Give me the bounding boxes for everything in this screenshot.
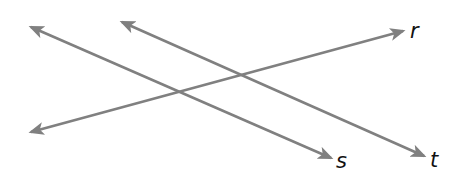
line-t-path: [122, 22, 424, 156]
line-s-label: s: [336, 149, 347, 173]
line-t-label: t: [430, 148, 439, 172]
line-r-path: [31, 31, 403, 132]
line-t: t: [122, 22, 439, 172]
line-r: r: [31, 19, 420, 132]
line-r-label: r: [410, 19, 420, 43]
lines-diagram: s t r: [0, 0, 462, 188]
